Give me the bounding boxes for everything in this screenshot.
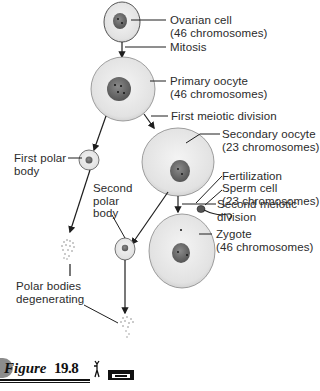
running-figure-icon[interactable] xyxy=(93,360,101,378)
secondary-oocyte-name: Secondary oocyte xyxy=(222,128,319,141)
primary-oocyte-chromosomes: (46 chromosomes) xyxy=(170,88,267,101)
secondary-oocyte xyxy=(142,128,214,196)
ovarian-cell-name: Ovarian cell xyxy=(170,14,267,27)
second-polar-body-label: Second polar body xyxy=(93,182,133,220)
polar-bodies-degenerating-line1: Polar bodies xyxy=(16,280,84,293)
zygote xyxy=(149,214,215,288)
ovarian-cell-label: Ovarian cell (46 chromosomes) xyxy=(170,14,267,39)
caption-rule-thin xyxy=(0,382,90,383)
second-meiotic-division-line1: Second meiotic xyxy=(217,198,297,211)
sperm-cell-name: Sperm cell xyxy=(222,182,319,195)
first-polar-body-label: First polar body xyxy=(14,152,66,177)
zygote-label: Zygote (46 chromosomes) xyxy=(216,228,313,253)
first-polar-body xyxy=(79,150,99,170)
secondary-oocyte-chromosomes: (23 chromosomes) xyxy=(222,141,319,154)
ovarian-cell xyxy=(104,2,140,42)
secondary-oocyte-label: Secondary oocyte (23 chromosomes) xyxy=(222,128,319,153)
first-polar-body-line2: body xyxy=(14,165,66,178)
zygote-chromosomes: (46 chromosomes) xyxy=(216,241,313,254)
mitosis-label: Mitosis xyxy=(170,41,206,54)
first-polar-body-line1: First polar xyxy=(14,152,66,165)
second-polar-body-line2: polar xyxy=(93,195,133,208)
zygote-name: Zygote xyxy=(216,228,313,241)
second-polar-body-line1: Second xyxy=(93,182,133,195)
degenerating-polar-body-1 xyxy=(61,239,75,259)
primary-oocyte xyxy=(91,57,155,121)
second-polar-body-line3: body xyxy=(93,207,133,220)
figure-word: Figure xyxy=(4,360,47,377)
primary-oocyte-name: Primary oocyte xyxy=(170,75,267,88)
figure-caption: Figure 19.8 xyxy=(0,358,92,382)
degenerating-polar-body-2 xyxy=(120,316,134,337)
second-polar-body xyxy=(115,238,135,260)
second-meiotic-division-line2: division xyxy=(217,211,297,224)
videotape-icon[interactable] xyxy=(108,370,134,380)
figure-number: 19.8 xyxy=(54,360,78,377)
polar-bodies-degenerating-line2: degenerating xyxy=(16,293,84,306)
ovarian-cell-chromosomes: (46 chromosomes) xyxy=(170,27,267,40)
polar-bodies-degenerating-label: Polar bodies degenerating xyxy=(16,280,84,305)
caption-rule xyxy=(0,379,90,381)
second-meiotic-division-label: Second meiotic division xyxy=(217,198,297,223)
fertilization-label: Fertilization xyxy=(222,170,282,183)
first-meiotic-division-label: First meiotic division xyxy=(171,110,277,123)
primary-oocyte-label: Primary oocyte (46 chromosomes) xyxy=(170,75,267,100)
